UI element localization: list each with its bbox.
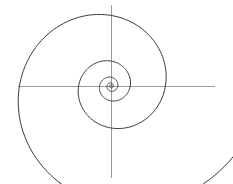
spiral-figure-svg: [0, 0, 233, 184]
logarithmic-spiral-curve: [0, 0, 233, 184]
spiral-figure-canvas: [0, 0, 233, 184]
